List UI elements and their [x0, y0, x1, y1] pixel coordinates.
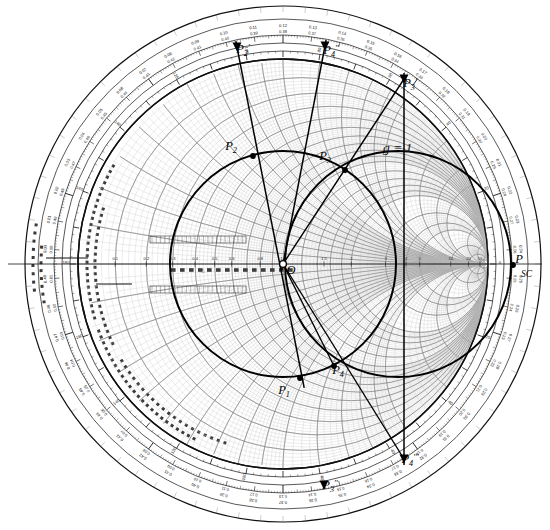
axis-tick-label: 20 [466, 256, 471, 261]
axis-caption-glyph [243, 268, 248, 272]
smith-chart-figure: 0.120.130.140.150.160.170.180.190.200.21… [0, 0, 550, 530]
perimeter-legend-mark [31, 264, 34, 267]
perimeter-legend-mark [34, 223, 37, 226]
perimeter-legend-mark [33, 288, 36, 291]
axis-tick-label: 0.8 [257, 256, 263, 261]
outer-scale-label-inner: 0.38 [279, 29, 288, 34]
perimeter-legend-mark [40, 253, 43, 256]
axis-caption-glyph [198, 268, 203, 272]
marker-P1 [297, 375, 303, 381]
perimeter-legend-mark [86, 279, 89, 282]
axis-caption-glyph [234, 268, 239, 272]
smith-chart-canvas: 0.120.130.140.150.160.170.180.190.200.21… [0, 0, 550, 530]
perimeter-legend-mark [41, 292, 44, 295]
outer-scale-label: 0.11 [249, 24, 258, 30]
perimeter-legend-mark [32, 248, 35, 251]
label-P3p: P3' [402, 76, 417, 92]
label-P5: P [514, 252, 523, 266]
axis-caption-glyph [270, 268, 275, 272]
outer-scale-label: 0.49 [42, 274, 48, 283]
perimeter-legend-mark [33, 231, 36, 234]
axis-tick-label: 1.5 [321, 256, 327, 261]
marker-P2 [250, 153, 256, 159]
outer-scale-label-inner: 0.25 [512, 275, 518, 284]
outer-scale-label-inner: 0.01 [48, 274, 54, 283]
outer-scale-label: 0.37 [278, 500, 287, 505]
axis-tick-label: 0.1 [112, 256, 118, 261]
axis-caption-glyph [207, 268, 212, 272]
axis-caption-glyph [189, 268, 194, 272]
label-P2p: P2' [235, 42, 250, 58]
outer-scale-label: 0.00 [42, 244, 48, 253]
perimeter-legend-mark [40, 277, 43, 280]
axis-caption-glyph [216, 268, 221, 272]
label-O: O [286, 263, 295, 277]
axis-caption-glyph [180, 268, 185, 272]
outer-scale-label-inner: 0.14 [307, 492, 316, 498]
annotation-g-equals-1: g = 1 [383, 140, 412, 155]
axis-caption-glyph [252, 268, 257, 272]
perimeter-legend-mark [32, 280, 35, 283]
marker-O [280, 261, 287, 268]
perimeter-legend-mark [32, 272, 35, 275]
perimeter-legend-mark [32, 240, 35, 243]
perimeter-legend-mark [40, 269, 43, 272]
perimeter-legend-mark [40, 245, 43, 248]
axis-caption-glyph [261, 268, 266, 272]
outer-scale-label-inner: 0.39 [250, 30, 259, 36]
perimeter-legend-mark [32, 256, 35, 259]
axis-tick-label: 0.5 [212, 256, 218, 261]
axis-caption-glyph [171, 268, 176, 272]
perimeter-legend-mark [40, 285, 43, 288]
outer-scale-label-inner: 0.37 [308, 30, 317, 36]
outer-scale-label-inner: 0.00 [48, 245, 54, 254]
annotation-sc-label: SC [521, 269, 533, 279]
axis-caption-glyph [225, 268, 230, 272]
axis-tick-label: 0.4 [192, 256, 198, 261]
perimeter-legend-mark [94, 253, 97, 256]
perimeter-legend-mark [42, 300, 45, 303]
outer-scale-label-inner: 0.12 [249, 492, 258, 498]
outer-scale-label: 0.12 [279, 23, 288, 28]
perimeter-legend-mark [93, 266, 96, 269]
outer-scale-label-inner: 0.13 [278, 494, 287, 499]
axis-tick-label: 50 [478, 256, 483, 261]
axis-tick-label: 0.6 [229, 256, 235, 261]
marker-P3 [342, 167, 348, 173]
axis-tick-label: 0.2 [144, 256, 150, 261]
axis-tick-label: 10 [449, 256, 454, 261]
